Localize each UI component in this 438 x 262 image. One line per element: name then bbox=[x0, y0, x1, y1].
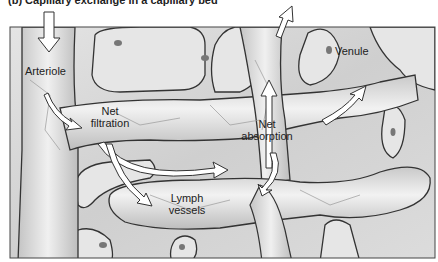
label-net-filtration-line2: filtration bbox=[84, 117, 136, 129]
label-net-filtration-line1: Net bbox=[84, 105, 136, 117]
label-lymph-line2: vessels bbox=[162, 204, 212, 216]
label-net-absorption: Net absorption bbox=[236, 118, 298, 142]
label-lymph-vessels: Lymph vessels bbox=[162, 192, 212, 216]
capillary-bed-illustration bbox=[0, 0, 438, 262]
label-venule: Venule bbox=[335, 45, 369, 57]
label-lymph-line1: Lymph bbox=[162, 192, 212, 204]
label-arteriole: Arteriole bbox=[25, 65, 66, 77]
label-net-filtration: Net filtration bbox=[84, 105, 136, 129]
label-net-absorption-line2: absorption bbox=[236, 130, 298, 142]
label-net-absorption-line1: Net bbox=[236, 118, 298, 130]
